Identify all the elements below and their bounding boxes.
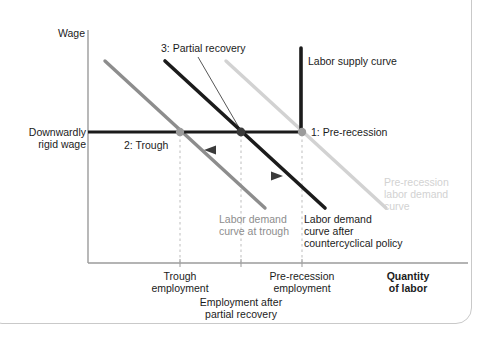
dot-trough xyxy=(176,128,184,136)
label-pre-recession: 1: Pre-recession xyxy=(311,126,387,139)
x-axis-label-line2: of labor xyxy=(348,282,468,295)
label-demand-trough-line2: curve at trough xyxy=(219,225,289,238)
label-trough: 2: Trough xyxy=(124,139,168,152)
label-demand-pre-recession-line2: labor demand xyxy=(384,188,448,201)
tick-label-partial-recovery-line2: partial recovery xyxy=(181,308,301,321)
label-demand-after-policy-line3: countercyclical policy xyxy=(304,237,403,250)
dot-pre-recession xyxy=(298,128,306,136)
label-demand-pre-recession-line1: Pre-recession xyxy=(384,176,449,189)
y-axis-label: Wage xyxy=(58,27,85,40)
dot-partial-recovery xyxy=(237,128,246,137)
label-demand-after-policy-line2: curve after xyxy=(304,225,354,238)
figure-container: Wage Downwardly rigid wage 3: Partial re… xyxy=(0,0,491,340)
x-axis-label-line1: Quantity xyxy=(348,270,468,283)
tick-label-trough-line1: Trough xyxy=(120,270,240,283)
label-partial-recovery: 3: Partial recovery xyxy=(161,42,246,55)
tick-label-pre-recession-line2: employment xyxy=(242,282,362,295)
arrow-rightward-shift xyxy=(232,171,283,180)
downwardly-rigid-wage-label-line2: rigid wage xyxy=(2,138,86,151)
tick-label-trough-line2: employment xyxy=(120,282,240,295)
label-demand-after-policy-line1: Labor demand xyxy=(304,213,372,226)
tick-label-partial-recovery-line1: Employment after xyxy=(181,296,301,309)
label-demand-trough-line1: Labor demand xyxy=(219,213,287,226)
label-labor-supply-curve: Labor supply curve xyxy=(308,55,397,68)
tick-label-pre-recession-line1: Pre-recession xyxy=(242,270,362,283)
label-demand-pre-recession-line3: curve xyxy=(384,200,410,213)
downwardly-rigid-wage-label-line1: Downwardly xyxy=(2,126,86,139)
